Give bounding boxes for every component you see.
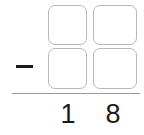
answer-cell-row0-col0[interactable] xyxy=(48,5,87,45)
answer-cell-row1-col0[interactable] xyxy=(48,48,87,89)
answer-cell-row1-col1[interactable] xyxy=(93,48,137,89)
subtraction-bar xyxy=(12,93,140,94)
answer-cell-row0-col1[interactable] xyxy=(93,5,137,45)
result-digit-ones: 8 xyxy=(98,99,128,129)
result-digit-tens: 1 xyxy=(53,99,83,129)
subtraction-problem-widget: − 1 8 xyxy=(0,0,144,135)
minus-sign-icon: − xyxy=(16,65,33,68)
